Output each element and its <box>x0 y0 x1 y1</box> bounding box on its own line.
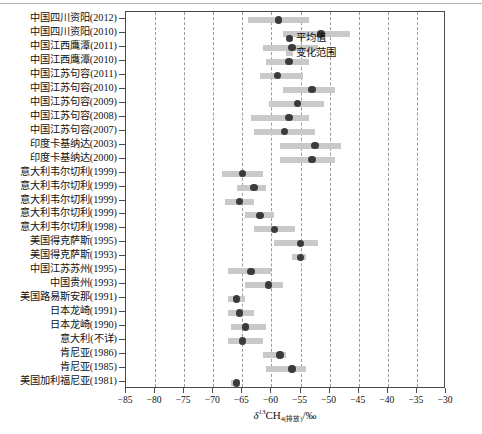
x-axis-tick-label: −35 <box>408 394 423 405</box>
x-axis-tick-label: −60 <box>263 394 278 405</box>
y-axis-category-label: 美国得克萨斯(1995) <box>30 234 117 248</box>
x-axis-tick <box>358 388 359 393</box>
data-row <box>126 347 444 361</box>
mean-dot-icon <box>286 35 293 42</box>
x-axis-title-unit: /‰ <box>303 409 317 421</box>
x-axis-tick-label: −50 <box>321 394 336 405</box>
data-row <box>126 68 444 82</box>
x-axis: −85−80−75−70−65−60−55−50−45−40−35−30 <box>125 388 445 410</box>
mean-dot <box>233 295 240 302</box>
x-axis-tick-label: −30 <box>437 394 452 405</box>
mean-dot <box>236 309 243 316</box>
data-row <box>126 305 444 319</box>
x-axis-tick <box>125 388 126 393</box>
mean-dot <box>308 156 315 163</box>
data-row <box>126 152 444 166</box>
x-axis-tick <box>212 388 213 393</box>
y-axis-category-label: 中国江苏苏州(1995) <box>30 262 117 276</box>
top-divider <box>0 3 482 4</box>
y-axis-category-label: 中国四川资阳(2010) <box>30 25 117 39</box>
data-row <box>126 235 444 249</box>
y-axis-category-label: 日本龙崎(1990) <box>50 318 117 332</box>
mean-dot <box>256 212 263 219</box>
legend-label: 平均值 <box>296 32 326 43</box>
x-axis-tick <box>183 388 184 393</box>
y-axis-category-label: 中国四川资阳(2012) <box>30 11 117 25</box>
y-axis-category-label: 印度卡基纳达(2003) <box>30 137 117 151</box>
x-axis-title-superscript: 13 <box>259 408 266 416</box>
data-row <box>126 221 444 235</box>
y-axis-category-label: 意大利韦尔切利(1999) <box>20 179 117 193</box>
range-bar-icon <box>286 51 293 56</box>
y-axis-category-label: 中国江苏句容(2008) <box>30 109 117 123</box>
data-row <box>126 361 444 375</box>
data-row <box>126 110 444 124</box>
y-axis-category-label: 中国江苏句容(2009) <box>30 95 117 109</box>
mean-dot <box>239 337 246 344</box>
mean-dot <box>242 323 249 330</box>
x-axis-tick-label: −70 <box>205 394 220 405</box>
range-bar <box>266 366 307 372</box>
y-axis-category-labels: 中国四川资阳(2012)中国四川资阳(2010)中国江西鹰潭(2011)中国江西… <box>0 11 122 388</box>
range-bar <box>260 73 304 79</box>
y-axis-category-label: 意大利韦尔切利(1999) <box>20 206 117 220</box>
mean-dot <box>250 184 257 191</box>
data-row <box>126 26 444 40</box>
range-bar <box>251 115 309 121</box>
x-axis-title-main: CH <box>266 409 281 421</box>
x-axis-tick-label: −40 <box>379 394 394 405</box>
y-axis-category-label: 中国江苏句容(2007) <box>30 123 117 137</box>
data-row <box>126 263 444 277</box>
x-axis-tick-label: −85 <box>117 394 132 405</box>
data-row <box>126 180 444 194</box>
y-axis-category-label: 肯尼亚(1985) <box>60 360 117 374</box>
y-axis-category-label: 意大利韦尔切利(1999) <box>20 193 117 207</box>
mean-dot <box>247 268 254 275</box>
legend-item: 平均值 <box>286 30 336 45</box>
data-row <box>126 194 444 208</box>
mean-dot <box>297 254 304 261</box>
y-axis-category-label: 中国江西鹰潭(2011) <box>30 39 117 53</box>
mean-dot <box>288 365 295 372</box>
legend-item: 变化范围 <box>286 45 336 60</box>
data-row <box>126 207 444 221</box>
data-row <box>126 277 444 291</box>
x-axis-tick <box>270 388 271 393</box>
data-row <box>126 291 444 305</box>
y-axis-category-label: 中国江西鹰潭(2010) <box>30 53 117 67</box>
data-row <box>126 54 444 68</box>
x-axis-tick <box>300 388 301 393</box>
mean-dot <box>265 281 272 288</box>
x-axis-tick <box>241 388 242 393</box>
data-row <box>126 12 444 26</box>
y-axis-category-label: 美国加利福尼亚(1981) <box>20 374 117 388</box>
data-row <box>126 319 444 333</box>
x-axis-title-subscript: 4(排放) <box>281 415 303 422</box>
mean-dot <box>285 114 292 121</box>
plot-area: 平均值变化范围 <box>125 11 445 388</box>
data-row <box>126 375 444 389</box>
mean-dot <box>233 379 240 386</box>
y-axis-category-label: 中国江苏句容(2010) <box>30 81 117 95</box>
x-axis-tick-label: −75 <box>176 394 191 405</box>
x-axis-tick-label: −55 <box>292 394 307 405</box>
legend-label: 变化范围 <box>296 47 336 58</box>
y-axis-category-label: 意大利(不详) <box>60 332 117 346</box>
y-axis-category-label: 日本龙崎(1991) <box>50 304 117 318</box>
x-axis-title: δ13CH4(排放)/‰ <box>125 408 445 421</box>
mean-dot <box>311 142 318 149</box>
x-axis-tick-label: −45 <box>350 394 365 405</box>
y-axis-category-label: 印度卡基纳达(2000) <box>30 151 117 165</box>
y-axis-category-label: 肯尼亚(1986) <box>60 346 117 360</box>
data-row <box>126 96 444 110</box>
x-axis-tick <box>154 388 155 393</box>
y-axis-category-label: 中国江苏句容(2011) <box>30 67 117 81</box>
y-axis-category-label: 美国得克萨斯(1993) <box>30 248 117 262</box>
chart-container: 中国四川资阳(2012)中国四川资阳(2010)中国江西鹰潭(2011)中国江西… <box>0 0 482 434</box>
y-axis-category-label: 意大利韦尔切利(1998) <box>20 220 117 234</box>
data-row <box>126 333 444 347</box>
legend: 平均值变化范围 <box>286 30 336 60</box>
data-row <box>126 124 444 138</box>
data-row <box>126 40 444 54</box>
y-axis-category-label: 美国路易斯安那(1991) <box>20 290 117 304</box>
